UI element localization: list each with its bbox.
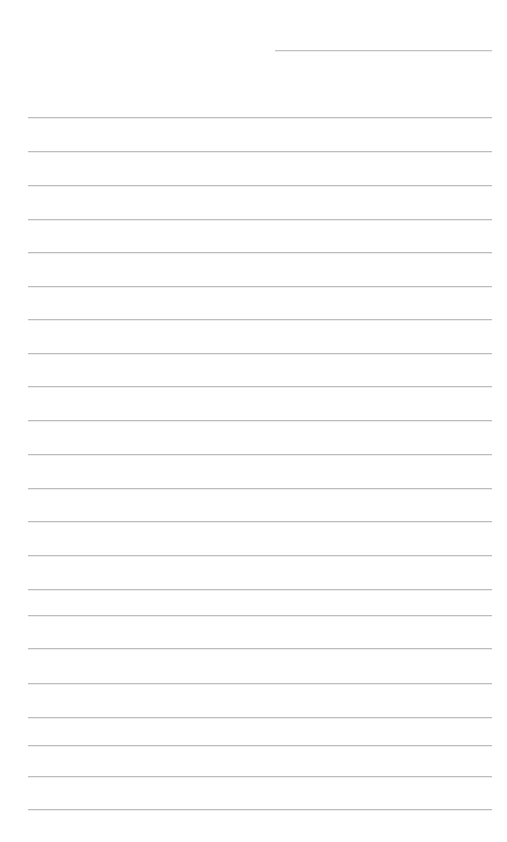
rule-9 — [28, 386, 492, 387]
rule-7 — [28, 319, 492, 320]
rule-13 — [28, 521, 492, 522]
rule-22 — [28, 809, 492, 810]
rule-14 — [28, 555, 492, 556]
rule-8 — [28, 353, 492, 354]
rule-21 — [28, 776, 492, 777]
rule-18 — [28, 683, 492, 684]
rule-11 — [28, 454, 492, 455]
rule-2 — [28, 151, 492, 152]
rule-12 — [28, 488, 492, 489]
rule-3 — [28, 185, 492, 186]
lined-paper-page — [0, 0, 507, 842]
rule-17 — [28, 648, 492, 649]
rule-1 — [28, 117, 492, 118]
rule-16 — [28, 615, 492, 616]
rule-header — [275, 50, 492, 51]
rule-10 — [28, 420, 492, 421]
rule-19 — [28, 717, 492, 718]
rule-5 — [28, 252, 492, 253]
rule-6 — [28, 286, 492, 287]
rule-4 — [28, 219, 492, 220]
rule-20 — [28, 745, 492, 746]
rule-15 — [28, 589, 492, 590]
